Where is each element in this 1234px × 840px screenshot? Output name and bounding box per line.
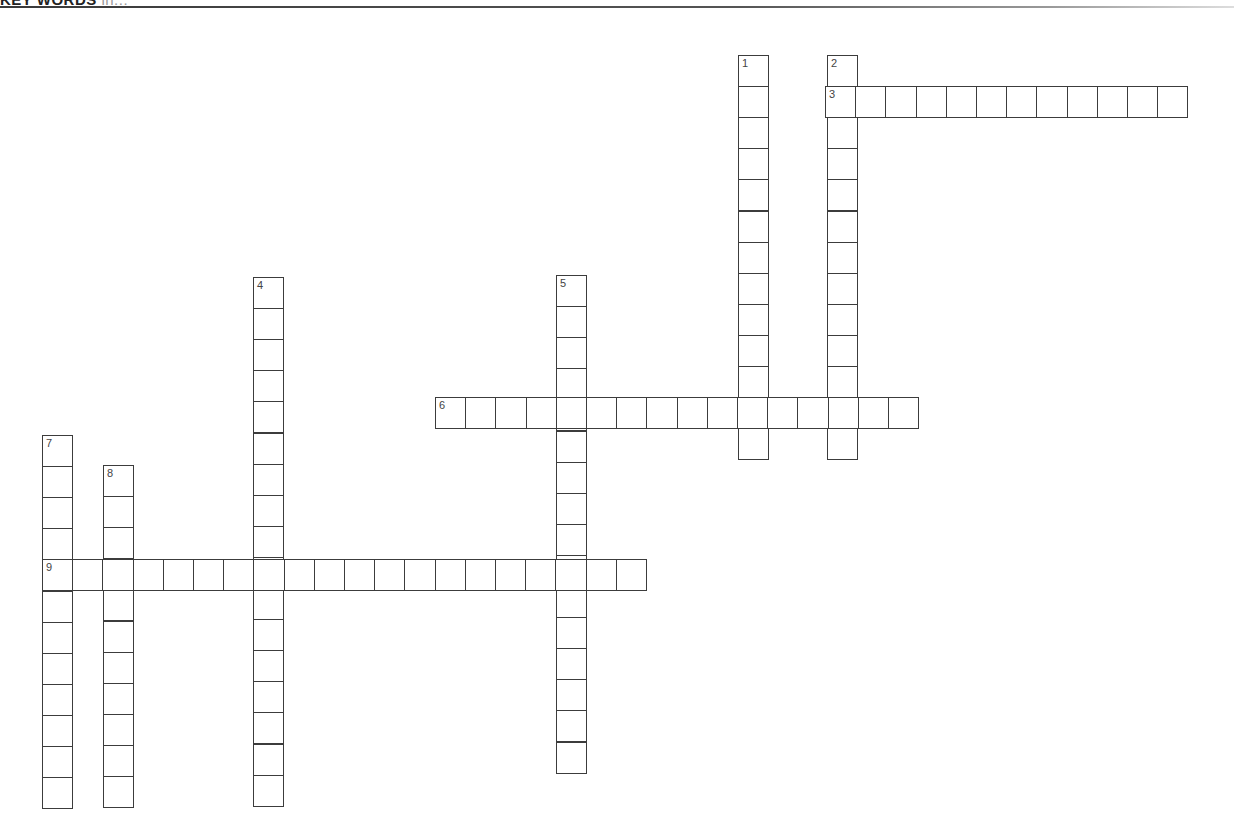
crossword-cell[interactable] xyxy=(253,370,284,402)
crossword-cell[interactable] xyxy=(42,622,73,654)
crossword-cell[interactable] xyxy=(344,559,375,591)
crossword-cell[interactable] xyxy=(253,775,284,807)
crossword-cell[interactable] xyxy=(465,559,496,591)
crossword-cell[interactable] xyxy=(946,86,977,118)
crossword-cell[interactable] xyxy=(556,493,587,525)
crossword-cell[interactable] xyxy=(42,746,73,778)
crossword-cell[interactable] xyxy=(767,397,798,429)
crossword-cell[interactable] xyxy=(284,559,315,591)
crossword-cell[interactable] xyxy=(646,397,677,429)
crossword-cell[interactable] xyxy=(827,428,858,460)
crossword-cell[interactable] xyxy=(616,397,647,429)
crossword-cell[interactable] xyxy=(556,679,587,711)
crossword-cell[interactable] xyxy=(828,397,859,429)
crossword-cell[interactable] xyxy=(556,648,587,680)
crossword-cell[interactable] xyxy=(738,117,769,149)
crossword-cell[interactable] xyxy=(163,559,194,591)
crossword-cell[interactable] xyxy=(556,742,587,774)
crossword-cell[interactable] xyxy=(404,559,435,591)
crossword-cell[interactable] xyxy=(556,397,587,429)
crossword-cell[interactable] xyxy=(72,559,103,591)
crossword-cell[interactable] xyxy=(253,588,284,620)
crossword-cell[interactable] xyxy=(827,179,858,211)
crossword-cell[interactable] xyxy=(253,495,284,527)
crossword-cell[interactable] xyxy=(737,397,768,429)
crossword-cell[interactable] xyxy=(193,559,224,591)
crossword-cell[interactable]: 9 xyxy=(42,559,73,591)
crossword-cell[interactable] xyxy=(827,117,858,149)
crossword-cell[interactable] xyxy=(916,86,947,118)
crossword-cell[interactable] xyxy=(797,397,828,429)
crossword-cell[interactable] xyxy=(827,211,858,243)
crossword-cell[interactable] xyxy=(42,715,73,747)
crossword-cell[interactable] xyxy=(102,559,133,591)
crossword-cell[interactable] xyxy=(253,681,284,713)
crossword-cell[interactable] xyxy=(133,559,164,591)
crossword-cell[interactable] xyxy=(827,148,858,180)
crossword-cell[interactable] xyxy=(827,273,858,305)
crossword-cell[interactable]: 2 xyxy=(827,55,858,87)
crossword-cell[interactable] xyxy=(1157,86,1188,118)
crossword-cell[interactable] xyxy=(103,527,134,559)
crossword-cell[interactable] xyxy=(253,559,284,591)
crossword-cell[interactable] xyxy=(976,86,1007,118)
crossword-cell[interactable] xyxy=(253,619,284,651)
crossword-cell[interactable]: 3 xyxy=(825,86,856,118)
crossword-cell[interactable] xyxy=(1036,86,1067,118)
crossword-cell[interactable] xyxy=(525,559,556,591)
crossword-cell[interactable] xyxy=(42,528,73,560)
crossword-cell[interactable] xyxy=(495,559,526,591)
crossword-cell[interactable] xyxy=(103,621,134,653)
crossword-cell[interactable] xyxy=(103,496,134,528)
crossword-cell[interactable] xyxy=(738,366,769,398)
crossword-cell[interactable] xyxy=(677,397,708,429)
crossword-cell[interactable]: 4 xyxy=(253,277,284,309)
crossword-cell[interactable] xyxy=(465,397,496,429)
crossword-cell[interactable] xyxy=(1097,86,1128,118)
crossword-cell[interactable] xyxy=(42,777,73,809)
crossword-cell[interactable] xyxy=(556,710,587,742)
crossword-cell[interactable] xyxy=(556,617,587,649)
crossword-cell[interactable] xyxy=(253,308,284,340)
crossword-cell[interactable] xyxy=(855,86,886,118)
crossword-cell[interactable] xyxy=(253,712,284,744)
crossword-cell[interactable] xyxy=(827,366,858,398)
crossword-cell[interactable] xyxy=(556,306,587,338)
crossword-cell[interactable] xyxy=(374,559,405,591)
crossword-cell[interactable] xyxy=(738,273,769,305)
crossword-cell[interactable] xyxy=(556,431,587,463)
crossword-cell[interactable] xyxy=(707,397,738,429)
crossword-cell[interactable] xyxy=(556,462,587,494)
crossword-cell[interactable] xyxy=(495,397,526,429)
crossword-cell[interactable] xyxy=(253,339,284,371)
crossword-cell[interactable] xyxy=(586,559,617,591)
crossword-cell[interactable] xyxy=(738,304,769,336)
crossword-cell[interactable] xyxy=(827,335,858,367)
crossword-cell[interactable] xyxy=(885,86,916,118)
crossword-cell[interactable] xyxy=(556,368,587,400)
crossword-cell[interactable] xyxy=(435,559,466,591)
crossword-cell[interactable] xyxy=(103,589,134,621)
crossword-cell[interactable]: 1 xyxy=(738,55,769,87)
crossword-cell[interactable] xyxy=(1067,86,1098,118)
crossword-cell[interactable] xyxy=(103,714,134,746)
crossword-cell[interactable] xyxy=(223,559,254,591)
crossword-cell[interactable] xyxy=(103,683,134,715)
crossword-cell[interactable] xyxy=(738,242,769,274)
crossword-cell[interactable] xyxy=(738,428,769,460)
crossword-cell[interactable] xyxy=(103,652,134,684)
crossword-cell[interactable] xyxy=(42,466,73,498)
crossword-cell[interactable]: 5 xyxy=(556,275,587,307)
crossword-cell[interactable] xyxy=(555,559,586,591)
crossword-cell[interactable] xyxy=(253,464,284,496)
crossword-cell[interactable] xyxy=(586,397,617,429)
crossword-cell[interactable] xyxy=(103,776,134,808)
crossword-cell[interactable] xyxy=(253,526,284,558)
crossword-cell[interactable] xyxy=(738,148,769,180)
crossword-cell[interactable] xyxy=(526,397,557,429)
crossword-cell[interactable] xyxy=(858,397,889,429)
crossword-cell[interactable] xyxy=(616,559,647,591)
crossword-cell[interactable] xyxy=(827,242,858,274)
crossword-cell[interactable]: 6 xyxy=(435,397,466,429)
crossword-cell[interactable]: 8 xyxy=(103,465,134,497)
